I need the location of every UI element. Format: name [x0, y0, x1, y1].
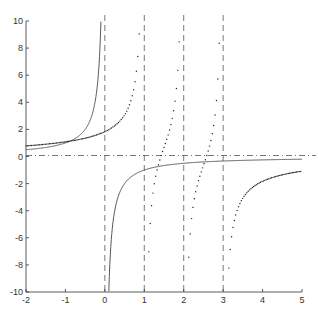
y-tick-label: 10: [13, 16, 23, 26]
plot-area: -2-1012345-10-8-6-4-20246810: [0, 0, 318, 316]
y-tick-label: 8: [18, 43, 23, 53]
x-tick-label: 5: [299, 295, 304, 305]
solid-curve-right-branch: [109, 159, 302, 291]
curves: [25, 22, 302, 292]
y-tick-label: 4: [18, 97, 23, 107]
reference-lines: [26, 15, 316, 292]
x-tick-label: 2: [181, 295, 186, 305]
x-tick-label: 4: [260, 295, 265, 305]
y-tick-label: -10: [10, 287, 23, 297]
y-tick-label: 6: [18, 70, 23, 80]
dotted-curve: [25, 33, 301, 269]
y-tick-label: -2: [15, 179, 23, 189]
y-tick-label: 0: [18, 152, 23, 162]
y-tick-label: -6: [15, 233, 23, 243]
x-tick-label: 1: [142, 295, 147, 305]
y-tick-label: -4: [15, 206, 23, 216]
x-tick-label: 3: [221, 295, 226, 305]
y-tick-label: 2: [18, 124, 23, 134]
axes: -2-1012345-10-8-6-4-20246810: [10, 16, 305, 305]
y-tick-label: -8: [15, 260, 23, 270]
x-tick-label: 0: [102, 295, 107, 305]
x-tick-label: -1: [61, 295, 69, 305]
x-tick-label: -2: [22, 295, 30, 305]
solid-curve-left-branch: [26, 22, 101, 150]
